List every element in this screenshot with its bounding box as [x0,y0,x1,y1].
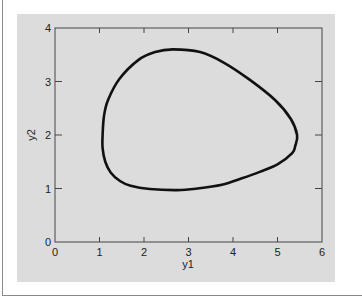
y-tick-label: 4 [45,22,51,34]
x-tick-label: 5 [274,246,280,258]
trajectory-curve [102,49,297,190]
x-tick-label: 6 [319,246,325,258]
y-tick-label: 2 [45,129,51,141]
y-axis-label: y2 [25,129,37,141]
x-tick-label: 2 [141,246,147,258]
y-tick-label: 3 [45,76,51,88]
x-tick-label: 4 [230,246,236,258]
x-tick-label: 0 [52,246,58,258]
x-axis-ticks: 0123456 [52,28,325,258]
x-tick-label: 1 [96,246,102,258]
x-axis-label: y1 [182,258,194,270]
y-axis-ticks: 01234 [45,22,322,248]
y-tick-label: 1 [45,183,51,195]
y-tick-label: 0 [45,236,51,248]
x-tick-label: 3 [185,246,191,258]
plot-area-border [55,28,322,242]
